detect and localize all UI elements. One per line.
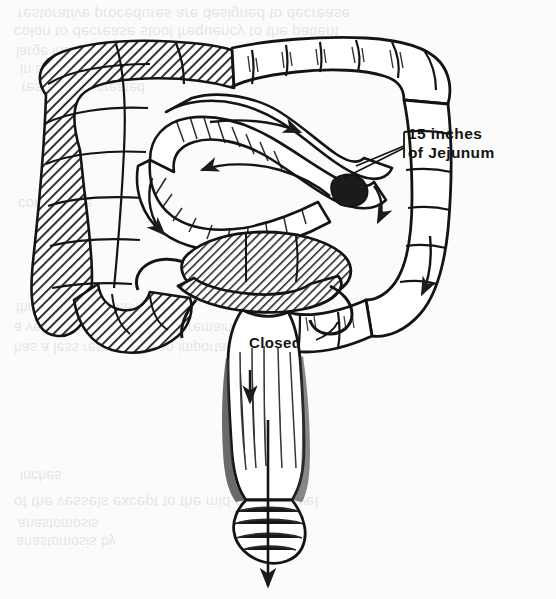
transverse-colon <box>232 37 450 104</box>
lower-left-hatched-colon <box>74 284 192 353</box>
closed-segment-label: Closed <box>249 334 301 351</box>
jejunum-label-line-2: of Jejunum <box>408 143 495 162</box>
diagram-page: restorative procedures are designed to d… <box>0 0 556 599</box>
jejunum-label-line-1: 15 inches <box>408 124 495 143</box>
jejunum-length-label: 15 inches of Jejunum <box>408 124 495 162</box>
colon-diagram-figure <box>0 0 556 599</box>
anastomosis-site <box>331 175 367 207</box>
anal-canal <box>234 500 306 563</box>
